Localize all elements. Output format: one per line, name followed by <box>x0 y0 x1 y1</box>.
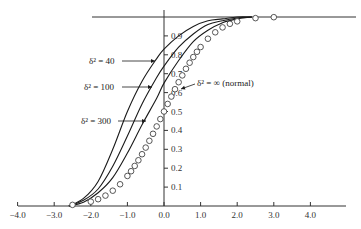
x-tick-label: −1.0 <box>119 210 136 220</box>
normal-marker <box>154 124 160 130</box>
label-delta-inf-normal: δ² = ∞ (normal) <box>197 78 254 88</box>
x-tick-label: 4.0 <box>305 210 317 220</box>
normal-marker <box>147 138 153 144</box>
normal-marker <box>187 60 193 66</box>
y-tick-label: 0.9 <box>171 31 183 41</box>
normal-marker <box>143 145 149 151</box>
normal-marker <box>161 109 167 115</box>
normal-marker <box>150 131 156 137</box>
normal-marker <box>110 188 116 194</box>
normal-marker <box>158 116 164 122</box>
label-delta-100: δ² = 100 <box>84 82 115 92</box>
normal-marker <box>253 15 259 21</box>
y-tick-label: 0.4 <box>171 125 183 135</box>
normal-marker <box>183 66 189 72</box>
normal-marker <box>205 36 211 42</box>
x-tick-label: −2.0 <box>83 210 100 220</box>
x-tick-label: 0.0 <box>158 210 170 220</box>
x-tick-label: 3.0 <box>268 210 280 220</box>
normal-marker <box>136 157 142 163</box>
curves <box>69 17 252 206</box>
label-delta-40: δ² = 40 <box>89 56 115 66</box>
cdf-chart: −4.0−3.0−2.0−1.00.01.02.03.04.00.10.20.3… <box>0 0 361 229</box>
y-tick-label: 0.2 <box>171 163 182 173</box>
normal-marker <box>198 44 204 50</box>
normal-marker <box>128 168 134 174</box>
normal-marker <box>176 79 182 85</box>
normal-marker <box>95 196 101 202</box>
normal-marker <box>220 25 226 31</box>
x-tick-label: −4.0 <box>9 210 26 220</box>
curve-delta-300 <box>69 17 252 206</box>
normal-marker <box>180 73 186 79</box>
curve-delta-40 <box>69 17 252 206</box>
normal-marker <box>132 163 138 169</box>
y-tick-label: 0.5 <box>171 107 183 117</box>
label-delta-300: δ² = 300 <box>81 116 112 126</box>
normal-marker <box>169 94 175 100</box>
normal-marker <box>165 101 171 107</box>
normal-marker <box>172 86 178 92</box>
x-tick-label: −3.0 <box>46 210 63 220</box>
normal-marker <box>88 199 94 205</box>
x-tick-label: 1.0 <box>195 210 207 220</box>
normal-marker <box>234 19 240 25</box>
normal-marker <box>190 54 196 60</box>
normal-marker <box>117 181 123 187</box>
normal-marker <box>227 21 233 27</box>
normal-marker <box>139 151 145 157</box>
annotations: δ² = 40 δ² = 100 δ² = 300 δ² = ∞ (normal… <box>81 56 254 126</box>
y-tick-label: 0.3 <box>171 144 183 154</box>
normal-marker <box>103 193 109 199</box>
normal-marker <box>212 30 218 36</box>
y-tick-label: 0.1 <box>171 182 182 192</box>
normal-marker <box>70 202 76 208</box>
axes: −4.0−3.0−2.0−1.00.01.02.03.04.00.10.20.3… <box>9 10 356 220</box>
curve-delta-100 <box>69 17 252 206</box>
normal-marker <box>271 14 277 20</box>
x-tick-label: 2.0 <box>232 210 244 220</box>
